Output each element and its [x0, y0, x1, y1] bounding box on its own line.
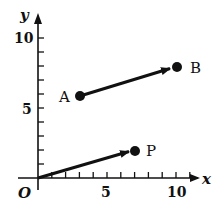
point-b-label: B [190, 59, 201, 77]
x-axis-arrow-icon [190, 174, 200, 182]
vector-op [38, 152, 129, 179]
point-b [172, 62, 182, 72]
y-ticks [38, 38, 44, 164]
x-ticks [52, 172, 190, 178]
y-tick-label-10: 10 [14, 30, 34, 46]
x-tick-label-5: 5 [101, 184, 111, 200]
point-a [75, 91, 85, 101]
origin-label: O [18, 184, 31, 202]
point-p [130, 146, 140, 156]
y-tick-label-5: 5 [22, 101, 32, 117]
y-axis-arrow-icon [34, 13, 42, 24]
coordinate-diagram: y x O 5 10 5 10 A B P [0, 0, 216, 213]
x-tick-label-10: 10 [167, 184, 187, 200]
point-p-label: P [146, 142, 156, 160]
vector-ab [80, 69, 170, 97]
point-a-label: A [58, 88, 70, 106]
y-axis-label: y [19, 6, 30, 24]
x-axis-label: x [201, 170, 212, 188]
